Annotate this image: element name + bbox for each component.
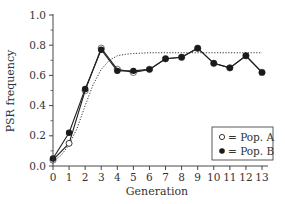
x-axis-label: Generation xyxy=(126,185,188,198)
x-tick-label: 8 xyxy=(178,171,185,183)
y-tick-label: 0.6 xyxy=(29,69,46,81)
data-point-pop-b xyxy=(114,68,120,74)
data-point-pop-b xyxy=(98,47,104,53)
x-tick-label: 11 xyxy=(223,171,236,183)
data-point-pop-b xyxy=(66,130,72,136)
x-tick-label: 0 xyxy=(50,171,57,183)
data-point-pop-a xyxy=(66,140,72,146)
y-axis-label: PSR frequency xyxy=(4,49,17,132)
data-point-pop-b xyxy=(82,86,88,92)
legend-label-pop-b: = Pop. B xyxy=(228,145,274,157)
legend-label-pop-a: = Pop. A xyxy=(228,131,274,143)
x-tick-label: 13 xyxy=(255,171,268,183)
y-tick-label: 0.2 xyxy=(29,129,46,141)
y-tick-label: 0.0 xyxy=(29,160,46,172)
legend-filled-circle-icon xyxy=(219,148,225,154)
x-tick-label: 9 xyxy=(194,171,201,183)
y-tick-label: 1.0 xyxy=(29,9,46,21)
y-tick-label: 0.4 xyxy=(29,99,46,111)
data-point-pop-b xyxy=(130,68,136,74)
x-tick-label: 1 xyxy=(66,171,73,183)
legend: = Pop. A = Pop. B xyxy=(212,127,274,160)
chart: 0.00.20.40.60.81.0012345678910111213 PSR… xyxy=(0,0,285,204)
y-tick-label: 0.8 xyxy=(29,39,46,51)
x-tick-label: 12 xyxy=(239,171,252,183)
x-tick-label: 3 xyxy=(98,171,105,183)
legend-open-circle-icon xyxy=(219,134,224,139)
x-tick-label: 2 xyxy=(82,171,89,183)
x-tick-label: 7 xyxy=(162,171,169,183)
x-tick-label: 10 xyxy=(207,171,220,183)
x-tick-label: 5 xyxy=(130,171,137,183)
x-tick-label: 6 xyxy=(146,171,153,183)
x-tick-label: 4 xyxy=(114,171,121,183)
